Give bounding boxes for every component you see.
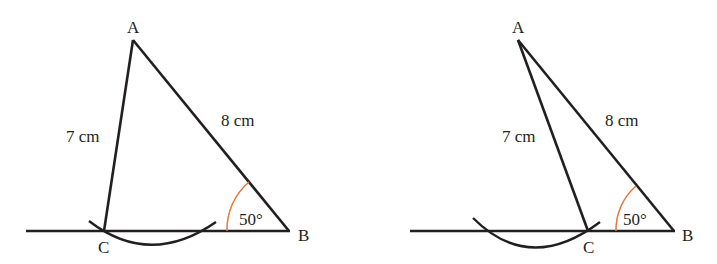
vertex-b-left: B bbox=[298, 226, 309, 245]
side-ac-label-left: 7 cm bbox=[66, 127, 100, 146]
vertex-a-left: A bbox=[127, 18, 140, 37]
angle-b-label-left: 50° bbox=[239, 210, 263, 229]
vertex-a-right: A bbox=[512, 18, 525, 37]
vertex-c-left: C bbox=[98, 238, 109, 257]
compass-arc-right bbox=[473, 218, 600, 248]
triangle-right: A B C 7 cm 8 cm 50° bbox=[410, 18, 693, 257]
side-ab-left bbox=[133, 40, 289, 231]
side-ab-right bbox=[518, 40, 674, 231]
angle-b-label-right: 50° bbox=[623, 210, 647, 229]
vertex-b-right: B bbox=[682, 226, 693, 245]
side-ab-label-right: 8 cm bbox=[605, 111, 639, 130]
diagram-canvas: A B C 7 cm 8 cm 50° A B C 7 cm 8 cm 50° bbox=[0, 0, 717, 264]
side-ac-label-right: 7 cm bbox=[502, 127, 536, 146]
vertex-c-right: C bbox=[583, 238, 594, 257]
side-ab-label-left: 8 cm bbox=[221, 111, 255, 130]
triangle-left: A B C 7 cm 8 cm 50° bbox=[26, 18, 309, 257]
side-ac-left bbox=[104, 40, 133, 231]
